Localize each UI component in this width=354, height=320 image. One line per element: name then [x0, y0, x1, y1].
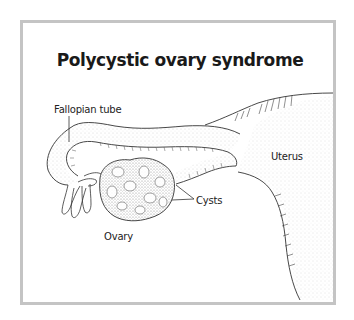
ovary-shape	[100, 158, 175, 221]
label-cysts: Cysts	[196, 195, 222, 206]
cysts-leader-lower	[172, 199, 194, 200]
uterus-shape	[205, 93, 333, 300]
cysts-leader-upper	[176, 185, 194, 199]
label-fallopian-tube: Fallopian tube	[54, 104, 121, 115]
label-uterus: Uterus	[271, 151, 303, 162]
label-ovary: Ovary	[104, 231, 133, 242]
